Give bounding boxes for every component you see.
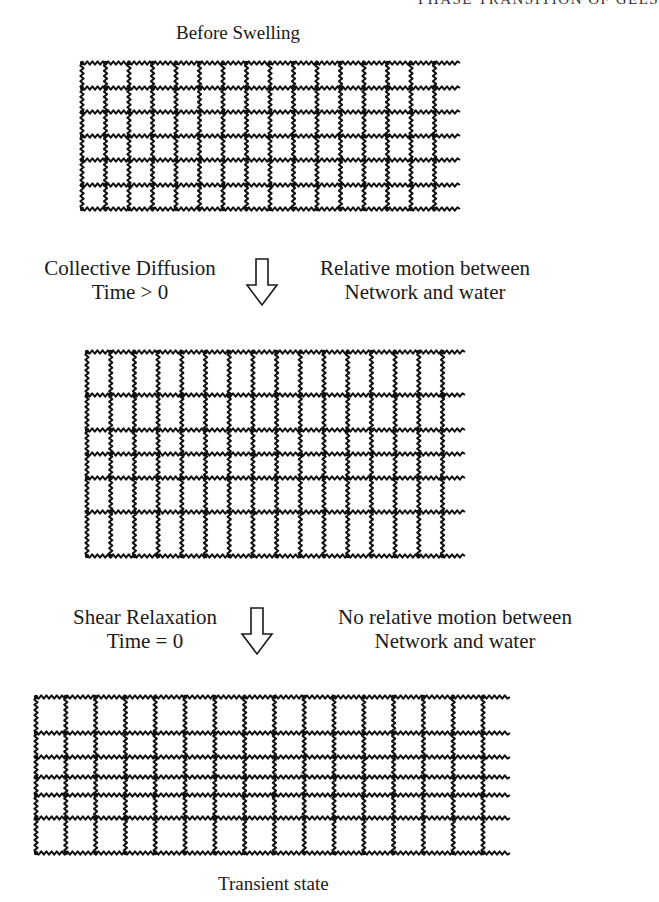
panel-title-transient-state: Transient state	[218, 873, 329, 895]
